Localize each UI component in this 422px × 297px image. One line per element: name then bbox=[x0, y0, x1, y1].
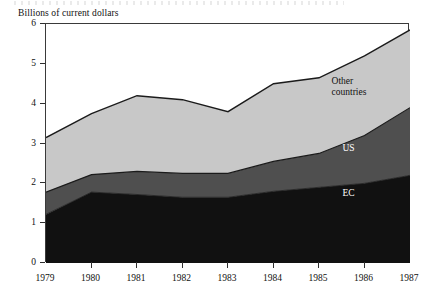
x-axis-tick-label: 1981 bbox=[114, 273, 158, 284]
x-axis-tick-label: 1982 bbox=[160, 273, 204, 284]
area-series-svg bbox=[46, 24, 410, 263]
y-axis-tick-label: 4 bbox=[14, 98, 36, 108]
x-axis-tick-mark bbox=[227, 262, 228, 268]
y-axis-tick-label: 1 bbox=[14, 217, 36, 227]
y-axis-tick-mark bbox=[40, 262, 45, 263]
series-label-other-countries: Other countries bbox=[332, 76, 367, 98]
x-axis-tick-label: 1979 bbox=[23, 273, 67, 284]
x-axis-tick-mark bbox=[273, 262, 274, 268]
y-axis-tick-label: 5 bbox=[14, 58, 36, 68]
x-axis-tick-mark bbox=[364, 262, 365, 268]
x-axis-tick-label: 1980 bbox=[69, 273, 113, 284]
plot-area: Other countriesUSEC bbox=[45, 23, 409, 262]
series-label-us: US bbox=[343, 143, 355, 154]
x-axis-tick-label: 1987 bbox=[387, 273, 422, 284]
x-axis-tick-label: 1985 bbox=[296, 273, 340, 284]
y-axis-tick-label: 3 bbox=[14, 138, 36, 148]
x-axis-tick-label: 1984 bbox=[251, 273, 295, 284]
x-axis-tick-label: 1986 bbox=[342, 273, 386, 284]
x-axis-tick-label: 1983 bbox=[205, 273, 249, 284]
stacked-area-chart: Billions of current dollars 0123456 Othe… bbox=[0, 0, 422, 297]
page-rule-artifact bbox=[14, 1, 344, 5]
x-axis-tick-mark bbox=[136, 262, 137, 268]
x-axis-tick-mark bbox=[91, 262, 92, 268]
x-axis-tick-mark bbox=[318, 262, 319, 268]
x-axis-tick-mark bbox=[182, 262, 183, 268]
y-axis-tick-label: 6 bbox=[14, 18, 36, 28]
series-label-ec: EC bbox=[343, 188, 355, 199]
y-axis-tick-label: 0 bbox=[14, 257, 36, 267]
y-axis-tick-label: 2 bbox=[14, 177, 36, 187]
